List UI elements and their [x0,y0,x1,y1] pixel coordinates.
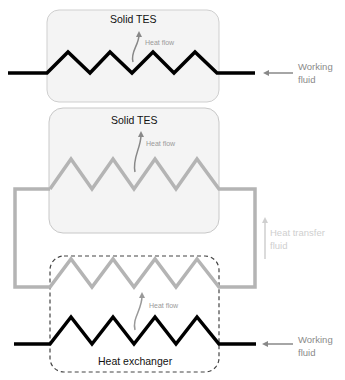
top-working-fluid-label-2: fluid [298,74,315,86]
diagram-canvas [0,0,345,380]
middle-tes-title: Solid TES [111,115,158,126]
bottom-working-fluid-label-2: fluid [298,347,315,359]
middle-heat-flow-label: Heat flow [146,140,175,147]
heat-exchanger-title: Heat exchanger [98,356,172,367]
htf-label-2: fluid [270,240,287,252]
htf-label-1: Heat transfer [270,227,325,239]
working-fluid-arrow-top [263,70,293,76]
htf-flow-arrow [262,217,268,259]
bottom-working-fluid-label-1: Working [298,334,333,346]
bottom-heat-flow-label: Heat flow [149,302,178,309]
heat-flow-arrow-bottom [134,292,145,330]
top-working-fluid-label-1: Working [298,61,333,73]
top-heat-flow-label: Heat flow [145,39,174,46]
working-fluid-arrow-bottom [262,341,293,347]
top-tes-title: Solid TES [110,14,157,25]
